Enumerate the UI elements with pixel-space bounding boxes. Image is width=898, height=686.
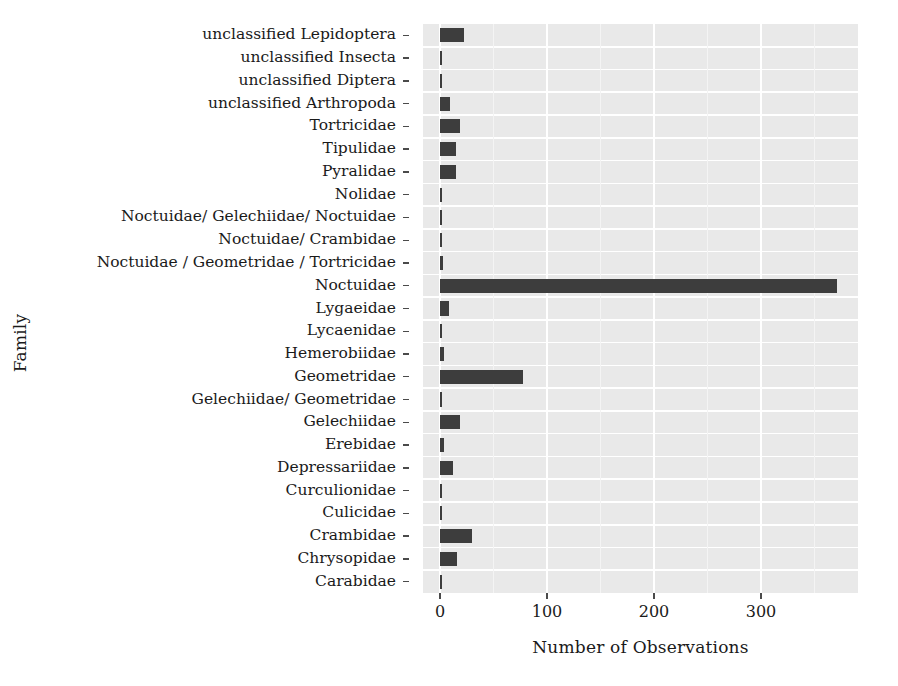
y-axis-tick-mark xyxy=(403,285,409,286)
y-axis-tick-label: Pyralidae xyxy=(322,164,396,180)
bar xyxy=(440,552,457,566)
y-axis-tick-mark xyxy=(403,331,409,332)
grid-line-horizontal xyxy=(423,387,858,389)
grid-line-horizontal xyxy=(423,456,858,458)
y-axis-tick-mark xyxy=(403,353,409,354)
bar xyxy=(440,575,442,589)
grid-line-horizontal xyxy=(423,501,858,503)
y-axis-tick-label: Noctuidae xyxy=(315,278,396,294)
y-axis-tick-mark xyxy=(403,35,409,36)
bar xyxy=(440,438,444,452)
x-axis-title-text: Number of Observations xyxy=(532,637,748,657)
bar xyxy=(440,142,456,156)
y-axis-tick-mark xyxy=(403,558,409,559)
bar xyxy=(440,97,450,111)
grid-line-vertical-minor xyxy=(814,24,815,593)
y-axis-tick-label: unclassified Diptera xyxy=(239,73,396,89)
grid-line-horizontal xyxy=(423,547,858,549)
x-axis-tick-label: 200 xyxy=(639,602,670,621)
y-axis-tick-mark xyxy=(403,80,409,81)
grid-line-vertical-major xyxy=(760,24,762,593)
grid-line-vertical-major xyxy=(653,24,655,593)
grid-line-horizontal xyxy=(423,319,858,321)
y-axis-tick-label: unclassified Arthropoda xyxy=(208,96,396,112)
x-axis-tick-mark xyxy=(439,593,440,599)
grid-line-horizontal xyxy=(423,46,858,48)
grid-line-horizontal xyxy=(423,342,858,344)
bar xyxy=(440,28,464,42)
bar xyxy=(440,188,442,202)
y-axis-tick-label: unclassified Lepidoptera xyxy=(202,27,396,43)
grid-line-horizontal xyxy=(423,274,858,276)
grid-line-vertical-minor xyxy=(600,24,601,593)
bar-chart-figure: Family unclassified Lepidopteraunclassif… xyxy=(0,0,898,686)
y-axis-tick-label: unclassified Insecta xyxy=(241,50,396,66)
y-axis-tick-label: Geometridae xyxy=(294,369,396,385)
bar xyxy=(440,392,442,406)
grid-line-horizontal xyxy=(423,114,858,116)
x-axis-title: Number of Observations xyxy=(423,637,858,657)
grid-line-horizontal xyxy=(423,524,858,526)
y-axis-tick-mark xyxy=(403,148,409,149)
bar xyxy=(440,370,523,384)
y-axis-tick-mark xyxy=(403,535,409,536)
y-axis-tick-mark xyxy=(403,262,409,263)
y-axis-tick-label: Noctuidae / Geometridae / Tortricidae xyxy=(97,255,396,271)
grid-line-horizontal xyxy=(423,251,858,253)
y-axis-tick-label: Tortricidae xyxy=(310,118,396,134)
bar xyxy=(440,484,442,498)
grid-line-horizontal xyxy=(423,160,858,162)
y-axis-tick-mark xyxy=(403,422,409,423)
y-axis-tick-label: Depressariidae xyxy=(277,460,396,476)
grid-line-horizontal xyxy=(423,205,858,207)
bar xyxy=(440,210,442,224)
grid-line-horizontal xyxy=(423,91,858,93)
bar xyxy=(440,529,472,543)
grid-line-horizontal xyxy=(423,228,858,230)
x-axis-tick-mark xyxy=(760,593,761,599)
y-axis-tick-label: Lycaenidae xyxy=(307,323,396,339)
grid-line-vertical-major xyxy=(546,24,548,593)
grid-line-vertical-minor xyxy=(707,24,708,593)
bar xyxy=(440,165,456,179)
y-axis-tick-mark xyxy=(403,467,409,468)
x-axis-tick-label: 0 xyxy=(435,602,445,621)
y-axis-tick-label: Crambidae xyxy=(310,528,396,544)
grid-line-horizontal xyxy=(423,365,858,367)
y-axis-tick-mark xyxy=(403,126,409,127)
bar xyxy=(440,301,449,315)
bar xyxy=(440,324,442,338)
y-axis-tick-label: Noctuidae/ Crambidae xyxy=(218,232,396,248)
grid-line-horizontal xyxy=(423,296,858,298)
bar xyxy=(440,279,837,293)
bar xyxy=(440,119,460,133)
y-axis-tick-label: Nolidae xyxy=(335,187,396,203)
grid-line-horizontal xyxy=(423,569,858,571)
bar xyxy=(440,461,453,475)
y-axis-tick-mark xyxy=(403,240,409,241)
bar xyxy=(440,74,442,88)
y-axis-tick-labels: unclassified Lepidopteraunclassified Ins… xyxy=(0,24,409,593)
y-axis-tick-label: Erebidae xyxy=(325,437,396,453)
y-axis-tick-label: Tipulidae xyxy=(323,141,396,157)
bar xyxy=(440,233,442,247)
y-axis-tick-mark xyxy=(403,103,409,104)
grid-line-horizontal xyxy=(423,433,858,435)
y-axis-tick-mark xyxy=(403,308,409,309)
bar xyxy=(440,506,442,520)
y-axis-tick-mark xyxy=(403,57,409,58)
x-axis-tick-label: 300 xyxy=(746,602,777,621)
y-axis-tick-label: Hemerobiidae xyxy=(285,346,396,362)
bar xyxy=(440,51,442,65)
grid-line-vertical-minor xyxy=(493,24,494,593)
y-axis-tick-label: Carabidae xyxy=(315,574,396,590)
bar xyxy=(440,347,444,361)
y-axis-tick-mark xyxy=(403,376,409,377)
y-axis-tick-mark xyxy=(403,399,409,400)
y-axis-tick-mark xyxy=(403,581,409,582)
x-axis-tick-mark xyxy=(653,593,654,599)
bar xyxy=(440,415,460,429)
grid-line-horizontal xyxy=(423,69,858,71)
x-axis-ticks: 0100200300 xyxy=(423,593,858,633)
y-axis-tick-mark xyxy=(403,171,409,172)
